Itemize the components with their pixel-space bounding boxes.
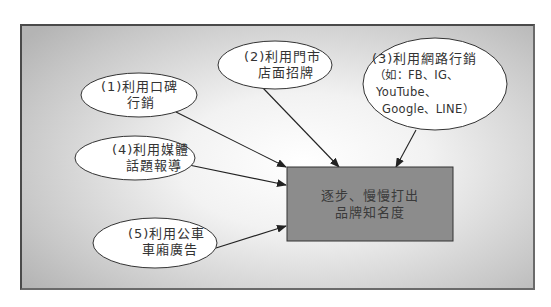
node-3-line-4: Google、LINE） — [372, 101, 477, 118]
node-1-line-2: 行銷 — [101, 95, 178, 111]
node-2-line-2: 店面招牌 — [244, 65, 321, 81]
node-2-label: (2)利用門市 店面招牌 — [244, 49, 321, 81]
node-2-line-1: (2)利用門市 — [244, 49, 321, 65]
node-5-line-2: 車廂廣告 — [128, 242, 205, 258]
node-4-line-2: 話題報導 — [112, 158, 189, 174]
node-1-label: (1)利用口碑 行銷 — [101, 79, 178, 111]
arrow-node-2-to-target — [263, 88, 339, 167]
diagram-canvas: (1)利用口碑 行銷 (2)利用門市 店面招牌 (3)利用網路行銷 （如：FB、… — [0, 0, 551, 307]
arrow-node-4-to-target — [189, 165, 286, 185]
node-3-line-3: YouTube、 — [372, 84, 477, 101]
target-line-1: 逐步、慢慢打出 — [321, 187, 419, 204]
arrow-node-3-to-target — [396, 130, 416, 167]
node-5-line-1: (5)利用公車 — [128, 226, 205, 242]
node-3-line-1: (3)利用網路行銷 — [372, 50, 477, 67]
node-3-label: (3)利用網路行銷 （如：FB、IG、 YouTube、 Google、LINE… — [372, 50, 477, 118]
node-4-label: (4)利用媒體 話題報導 — [112, 142, 189, 174]
target-line-2: 品牌知名度 — [335, 204, 405, 221]
node-4-line-1: (4)利用媒體 — [112, 142, 189, 158]
node-3-line-2: （如：FB、IG、 — [372, 67, 477, 84]
node-1-line-1: (1)利用口碑 — [101, 79, 178, 95]
node-5-label: (5)利用公車 車廂廣告 — [128, 226, 205, 258]
arrow-node-5-to-target — [216, 226, 286, 248]
diagram-graphics — [0, 0, 551, 307]
target-label: 逐步、慢慢打出 品牌知名度 — [287, 167, 453, 241]
